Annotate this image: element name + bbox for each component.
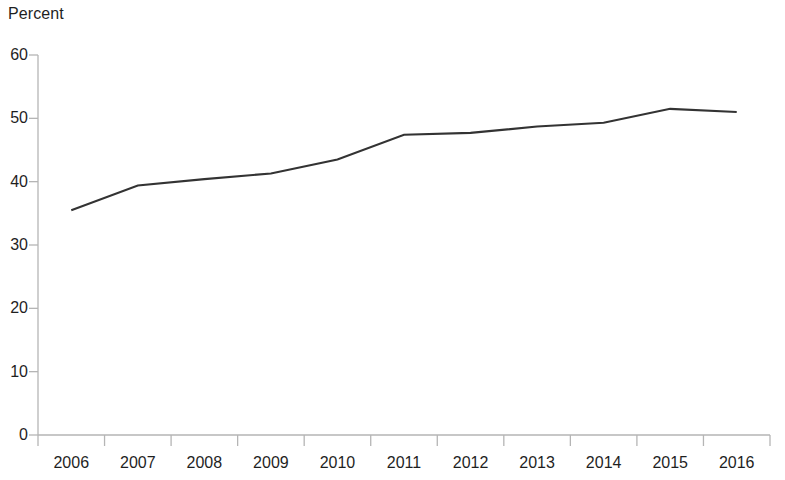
- y-axis-tick-label: 40: [0, 174, 28, 190]
- x-axis-tick-label: 2008: [171, 455, 238, 471]
- x-axis-tick-label: 2013: [504, 455, 571, 471]
- y-axis: [29, 55, 38, 435]
- data-line: [71, 109, 736, 210]
- line-chart: Percent 0102030405060 200620072008200920…: [0, 0, 785, 480]
- y-axis-tick-label: 30: [0, 237, 28, 253]
- y-axis-tick-label: 60: [0, 47, 28, 63]
- x-axis-tick-label: 2007: [105, 455, 172, 471]
- data-series-group: [71, 109, 736, 210]
- y-axis-tick-label: 20: [0, 300, 28, 316]
- y-axis-tick-label: 10: [0, 364, 28, 380]
- x-axis: [38, 435, 770, 446]
- y-axis-tick-label: 0: [0, 427, 28, 443]
- y-axis-tick-label: 50: [0, 110, 28, 126]
- x-axis-tick-label: 2015: [637, 455, 704, 471]
- chart-plot-area: [0, 0, 785, 480]
- x-axis-tick-label: 2006: [38, 455, 105, 471]
- x-axis-tick-label: 2014: [570, 455, 637, 471]
- x-axis-tick-label: 2010: [304, 455, 371, 471]
- y-axis-ticks: [29, 55, 38, 435]
- x-axis-tick-label: 2016: [703, 455, 770, 471]
- x-axis-tick-label: 2009: [238, 455, 305, 471]
- x-axis-ticks: [38, 435, 770, 446]
- x-axis-tick-label: 2012: [437, 455, 504, 471]
- x-axis-tick-label: 2011: [371, 455, 438, 471]
